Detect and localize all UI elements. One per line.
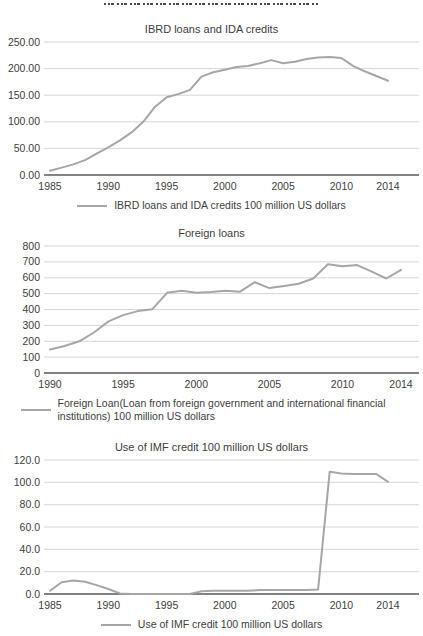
chart-canvas: 0.020.040.060.080.0100.0120.019851990199… [0, 454, 423, 618]
svg-text:2000: 2000 [213, 180, 237, 192]
svg-text:60.0: 60.0 [20, 521, 41, 533]
report-page: IBRD loans and IDA credits 0.0050.00100.… [0, 0, 423, 636]
svg-text:400: 400 [22, 303, 40, 315]
svg-text:2014: 2014 [376, 599, 400, 611]
svg-text:250.00: 250.00 [8, 36, 40, 48]
svg-text:50.00: 50.00 [14, 142, 40, 154]
svg-text:2005: 2005 [271, 180, 295, 192]
chart-plot: 0.0050.00100.00150.00200.00250.001985199… [0, 36, 423, 199]
chart-title: Use of IMF credit 100 million US dollars [0, 440, 423, 454]
chart-legend: Use of IMF credit 100 million US dollars [0, 618, 423, 631]
svg-text:2010: 2010 [330, 599, 354, 611]
svg-text:1985: 1985 [38, 599, 62, 611]
svg-text:120.0: 120.0 [14, 454, 40, 466]
chart-legend: IBRD loans and IDA credits 100 million U… [0, 199, 423, 212]
svg-text:0.0: 0.0 [25, 588, 40, 600]
svg-text:2005: 2005 [258, 378, 282, 390]
svg-text:700: 700 [22, 255, 40, 267]
chart-foreign-loans: Foreign loans 01002003004005006007008001… [0, 226, 423, 423]
chart-canvas: 0100200300400500600700800199019952000200… [0, 240, 423, 397]
svg-text:200: 200 [22, 335, 40, 347]
chart-imf-credit: Use of IMF credit 100 million US dollars… [0, 440, 423, 631]
svg-text:500: 500 [22, 287, 40, 299]
chart-title: Foreign loans [0, 226, 423, 240]
svg-text:40.0: 40.0 [20, 543, 41, 555]
svg-text:200.00: 200.00 [8, 62, 40, 74]
svg-text:100: 100 [22, 351, 40, 363]
chart-plot: 0100200300400500600700800199019952000200… [0, 240, 423, 397]
svg-text:2014: 2014 [376, 180, 400, 192]
svg-text:800: 800 [22, 240, 40, 252]
svg-text:1990: 1990 [38, 378, 62, 390]
svg-text:1995: 1995 [155, 180, 179, 192]
chart-plot: 0.020.040.060.080.0100.0120.019851990199… [0, 454, 423, 618]
svg-text:0.00: 0.00 [20, 169, 41, 181]
svg-text:1995: 1995 [111, 378, 135, 390]
svg-text:150.00: 150.00 [8, 89, 40, 101]
chart-ibrd-ida: IBRD loans and IDA credits 0.0050.00100.… [0, 22, 423, 212]
svg-text:1990: 1990 [97, 180, 121, 192]
legend-line-swatch [77, 205, 107, 207]
svg-text:80.0: 80.0 [20, 498, 41, 510]
legend-line-swatch [21, 409, 51, 411]
svg-text:2000: 2000 [185, 378, 209, 390]
svg-text:1985: 1985 [38, 180, 62, 192]
svg-text:2010: 2010 [331, 378, 355, 390]
svg-text:100.00: 100.00 [8, 115, 40, 127]
chart-legend: Foreign Loan(Loan from foreign governmen… [0, 397, 423, 423]
svg-text:1990: 1990 [97, 599, 121, 611]
svg-text:0: 0 [34, 367, 40, 379]
clipped-caption-text [104, 3, 319, 5]
svg-text:1995: 1995 [155, 599, 179, 611]
legend-line-swatch [101, 624, 131, 626]
svg-text:2000: 2000 [213, 599, 237, 611]
svg-text:2005: 2005 [271, 599, 295, 611]
svg-text:20.0: 20.0 [20, 565, 41, 577]
svg-text:300: 300 [22, 319, 40, 331]
chart-title: IBRD loans and IDA credits [0, 22, 423, 36]
legend-label: Use of IMF credit 100 million US dollars [138, 618, 322, 631]
legend-label: IBRD loans and IDA credits 100 million U… [114, 199, 346, 212]
legend-label: Foreign Loan(Loan from foreign governmen… [58, 397, 403, 423]
svg-text:2010: 2010 [330, 180, 354, 192]
chart-canvas: 0.0050.00100.00150.00200.00250.001985199… [0, 36, 423, 199]
svg-text:100.0: 100.0 [14, 476, 40, 488]
clipped-caption [0, 0, 423, 5]
svg-text:2014: 2014 [389, 378, 413, 390]
svg-text:600: 600 [22, 271, 40, 283]
